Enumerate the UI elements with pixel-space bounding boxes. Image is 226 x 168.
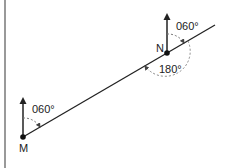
bearing-diagram: M N 060° 060° 180° (0, 0, 226, 168)
bearing-arc-n (167, 34, 184, 43)
label-bearing-m: 060° (32, 103, 55, 115)
north-arrowhead-n-icon (164, 13, 171, 20)
label-n: N (156, 42, 164, 54)
label-bearing-n: 060° (176, 20, 199, 32)
point-n (164, 50, 170, 56)
point-m (20, 134, 26, 140)
bearing-arc-m (23, 118, 40, 127)
label-angle-180: 180° (159, 63, 182, 75)
line-mn (23, 25, 215, 137)
north-arrowhead-m-icon (20, 97, 27, 104)
label-m: M (19, 142, 28, 154)
